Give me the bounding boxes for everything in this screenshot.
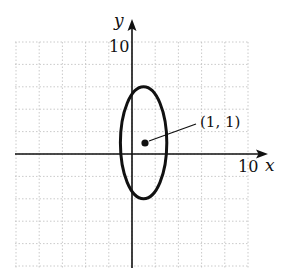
point-annotation: (1, 1) [200,113,240,131]
y-axis-label: y [113,10,124,30]
x-axis-label: x [265,155,275,175]
x-tick-label: 10 [238,157,258,176]
y-tick-label: 10 [109,37,129,56]
annotation-leader-line [149,124,196,141]
coordinate-plane: y 10 10 x (1, 1) [0,0,291,270]
center-point [141,139,148,146]
